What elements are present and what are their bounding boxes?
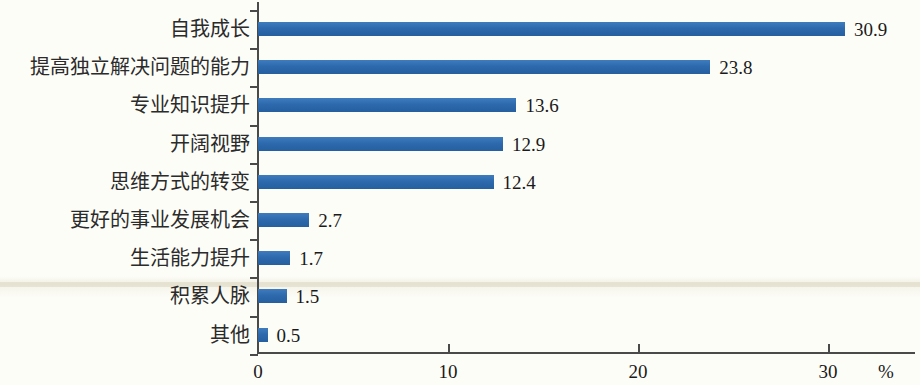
category-label: 自我成长 [170,19,250,39]
y-axis-tick [250,277,258,279]
category-label: 其他 [210,325,250,345]
bar-value-label: 13.6 [525,96,558,115]
y-axis-tick [250,163,258,165]
x-axis-tick-label: 0 [218,362,298,381]
bar-value-label: 12.4 [503,173,536,192]
bar [258,98,516,112]
bar-value-label: 1.7 [299,249,323,268]
y-axis-tick [250,86,258,88]
x-axis-tick-label: 10 [408,362,488,381]
bar-value-label: 1.5 [296,287,320,306]
bar [258,289,287,303]
category-label: 生活能力提升 [130,248,250,268]
y-axis-tick [250,354,258,356]
x-axis-tick-label: 30 [788,362,868,381]
horizontal-bar-chart: 自我成长30.9提高独立解决问题的能力23.8专业知识提升13.6开阔视野12.… [0,0,920,385]
category-label: 更好的事业发展机会 [70,210,250,230]
bar-value-label: 23.8 [719,58,752,77]
x-axis-tick [638,344,640,352]
bar [258,175,494,189]
bar [258,213,309,227]
category-label: 专业知识提升 [130,95,250,115]
x-axis-tick [828,344,830,352]
y-axis-tick [250,48,258,50]
bar [258,60,710,74]
category-label: 积累人脉 [170,286,250,306]
y-axis-tick [250,316,258,318]
bar-value-label: 2.7 [318,211,342,230]
x-axis-tick [448,344,450,352]
bar-value-label: 12.9 [512,135,545,154]
category-label: 开阔视野 [170,134,250,154]
y-axis-tick [250,239,258,241]
x-axis-tick-label: 20 [598,362,678,381]
category-label: 思维方式的转变 [110,172,250,192]
bar [258,251,290,265]
bar [258,22,845,36]
y-axis-tick [250,10,258,12]
category-label: 提高独立解决问题的能力 [30,57,250,77]
y-axis-tick [250,125,258,127]
bar [258,328,268,342]
x-axis-line [257,352,915,354]
bar [258,137,503,151]
x-axis-unit-label: % [878,362,894,381]
bar-value-label: 0.5 [277,326,301,345]
bar-value-label: 30.9 [854,20,887,39]
y-axis-tick [250,201,258,203]
